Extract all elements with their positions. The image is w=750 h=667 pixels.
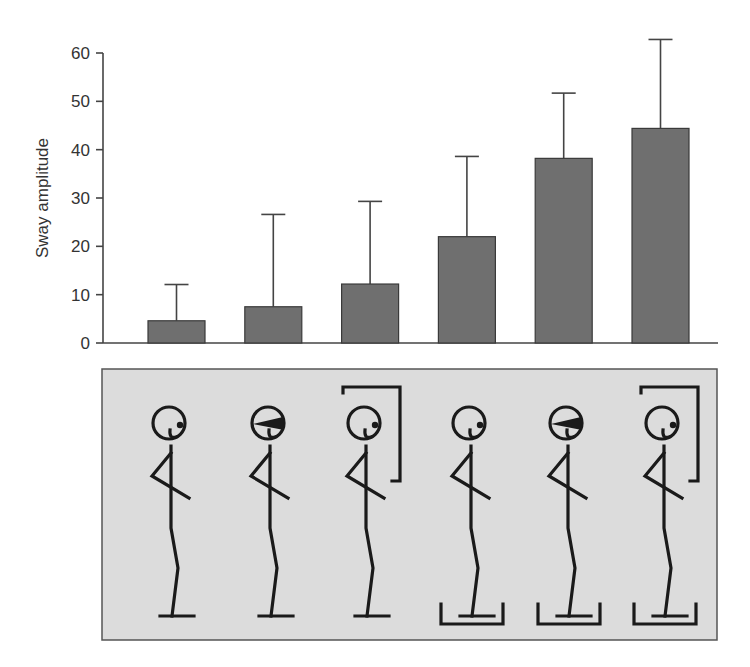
bar [632,128,689,343]
conditions-panel [102,369,717,640]
bar-chart: Sway amplitude 0102030405060 [33,39,718,353]
eye-icon [372,422,378,428]
bar [535,158,592,343]
y-tick-label: 50 [71,92,90,111]
bar [342,284,399,343]
bars [148,39,689,343]
bar [148,321,205,343]
y-axis-ticks: 0102030405060 [71,44,103,353]
figure: Sway amplitude 0102030405060 [0,0,750,667]
y-tick-label: 10 [71,286,90,305]
y-tick-label: 30 [71,189,90,208]
eye-icon [670,422,676,428]
bar-group [632,39,689,343]
y-tick-label: 60 [71,44,90,63]
bar-group [148,285,205,343]
eye-icon [177,422,183,428]
bar [245,307,302,343]
bar [438,237,495,343]
y-axis-title: Sway amplitude [33,138,52,258]
bar-group [535,93,592,343]
panel-background [102,369,717,640]
y-tick-label: 40 [71,141,90,160]
bar-group [245,214,302,343]
y-tick-label: 20 [71,237,90,256]
bar-group [438,156,495,343]
y-tick-label: 0 [81,334,90,353]
eye-icon [477,422,483,428]
bar-group [342,201,399,343]
